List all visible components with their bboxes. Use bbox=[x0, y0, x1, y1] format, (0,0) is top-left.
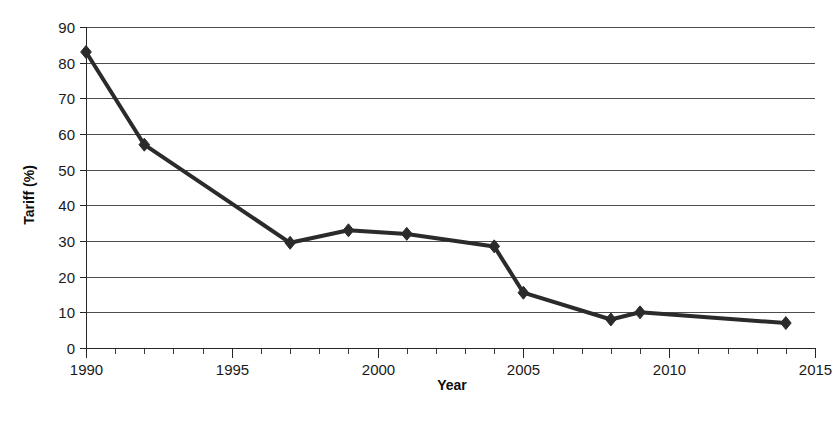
x-tick-label: 2015 bbox=[799, 361, 832, 378]
tariff-data-point-group bbox=[81, 45, 792, 329]
y-tick-label: 10 bbox=[58, 304, 75, 321]
x-tick-label-group: 199019952000200520102015 bbox=[70, 361, 832, 378]
y-tick-label-group: 0102030405060708090 bbox=[58, 19, 75, 357]
data-point-marker bbox=[635, 306, 646, 319]
x-tick-label: 2000 bbox=[362, 361, 395, 378]
data-point-marker bbox=[781, 317, 792, 330]
y-tick-label: 20 bbox=[58, 269, 75, 286]
y-tick-label: 60 bbox=[58, 126, 75, 143]
y-tick-label: 90 bbox=[58, 19, 75, 36]
y-tick-label: 0 bbox=[67, 340, 75, 357]
data-point-marker bbox=[401, 227, 412, 240]
x-tick-label: 1995 bbox=[216, 361, 249, 378]
data-point-marker bbox=[343, 224, 354, 237]
y-tick-label: 40 bbox=[58, 197, 75, 214]
y-axis-title: Tariff (%) bbox=[21, 165, 37, 225]
y-tickmark-group bbox=[80, 28, 86, 349]
x-minor-tickmark-group bbox=[116, 349, 787, 354]
tariff-series-line bbox=[86, 52, 786, 323]
y-tick-label: 50 bbox=[58, 162, 75, 179]
chart-canvas: 0102030405060708090 19901995200020052010… bbox=[0, 0, 840, 425]
x-tick-label: 1990 bbox=[70, 361, 103, 378]
y-tick-label: 30 bbox=[58, 233, 75, 250]
y-tick-label: 70 bbox=[58, 90, 75, 107]
gridline-group bbox=[86, 28, 815, 313]
x-tick-label: 2010 bbox=[653, 361, 686, 378]
x-tick-label: 2005 bbox=[507, 361, 540, 378]
x-axis-title: Year bbox=[437, 377, 467, 393]
tariff-line-chart: 0102030405060708090 19901995200020052010… bbox=[0, 0, 840, 425]
data-point-marker bbox=[606, 313, 617, 326]
y-tick-label: 80 bbox=[58, 55, 75, 72]
x-tickmark-group bbox=[87, 349, 816, 358]
